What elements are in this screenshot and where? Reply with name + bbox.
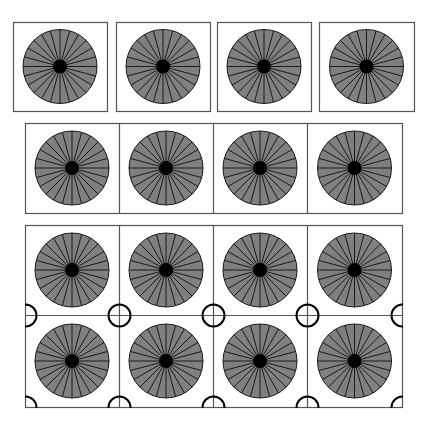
row-grid-with-rings	[15, 225, 414, 419]
hub	[253, 263, 267, 277]
hub	[156, 60, 170, 74]
row-joined-strip	[26, 123, 403, 214]
hub	[253, 161, 267, 175]
wheel-icon	[35, 233, 109, 307]
wheel-icon	[318, 131, 392, 205]
wheel-icon	[223, 233, 297, 307]
tile	[14, 23, 108, 112]
wheel-icon	[35, 324, 109, 398]
wheel-icon	[23, 30, 97, 104]
wheel-icon	[227, 30, 301, 104]
wheel-icon	[330, 30, 404, 104]
wheel-icon	[223, 324, 297, 398]
hub	[253, 354, 267, 368]
hub	[65, 161, 79, 175]
hub	[257, 60, 271, 74]
hub	[65, 263, 79, 277]
wheel-icon	[318, 324, 392, 398]
wheel-icon	[126, 30, 200, 104]
wheel-icon	[318, 233, 392, 307]
hub	[53, 60, 67, 74]
wheel-icon	[129, 131, 203, 205]
hub	[348, 263, 362, 277]
hub	[348, 354, 362, 368]
tile	[218, 23, 312, 112]
diagram-canvas	[0, 0, 431, 428]
wheel-icon	[129, 233, 203, 307]
hub	[65, 354, 79, 368]
hub	[348, 161, 362, 175]
hub	[159, 263, 173, 277]
tiled-wheels-diagram	[0, 0, 431, 428]
wheel-icon	[129, 324, 203, 398]
wheel-icon	[223, 131, 297, 205]
tile	[117, 23, 211, 112]
tile	[320, 23, 415, 112]
hub	[159, 354, 173, 368]
hub	[360, 60, 374, 74]
row-separate-tiles	[14, 23, 415, 112]
wheel-icon	[35, 131, 109, 205]
hub	[159, 161, 173, 175]
